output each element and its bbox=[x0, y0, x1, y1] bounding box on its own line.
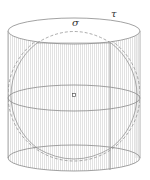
label-tau: τ bbox=[111, 8, 117, 19]
center-point bbox=[73, 94, 76, 97]
cylinder-sphere-diagram: σ τ bbox=[0, 0, 150, 180]
label-sigma: σ bbox=[72, 17, 80, 28]
